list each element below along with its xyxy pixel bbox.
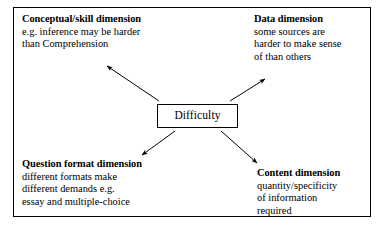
dimension-line: some sources are xyxy=(254,26,341,39)
dimension-heading-question-format: Question format dimension xyxy=(22,158,142,171)
dimension-line: essay and multiple-choice xyxy=(22,196,142,209)
dimension-heading-content: Content dimension xyxy=(257,167,340,180)
dimension-line: different formats make xyxy=(22,171,142,184)
dimension-block-data: Data dimension some sources are harder t… xyxy=(254,13,341,63)
dimension-line: e.g. inference may be harder xyxy=(22,26,141,39)
dimension-heading-conceptual: Conceptual/skill dimension xyxy=(22,13,141,26)
dimension-block-content: Content dimension quantity/specificity o… xyxy=(257,167,340,217)
dimension-block-question-format: Question format dimension different form… xyxy=(22,158,142,208)
dimension-line: of than others xyxy=(254,51,341,64)
dimension-line: different demands e.g. xyxy=(22,183,142,196)
dimension-line: of information xyxy=(257,192,340,205)
dimension-block-conceptual: Conceptual/skill dimension e.g. inferenc… xyxy=(22,13,141,51)
dimension-line: than Comprehension xyxy=(22,38,141,51)
central-node-label: Difficulty xyxy=(174,110,220,122)
dimension-line: required xyxy=(257,205,340,218)
dimension-line: quantity/specificity xyxy=(257,180,340,193)
dimension-heading-data: Data dimension xyxy=(254,13,341,26)
dimension-line: harder to make sense xyxy=(254,38,341,51)
central-node-difficulty: Difficulty xyxy=(157,104,238,128)
